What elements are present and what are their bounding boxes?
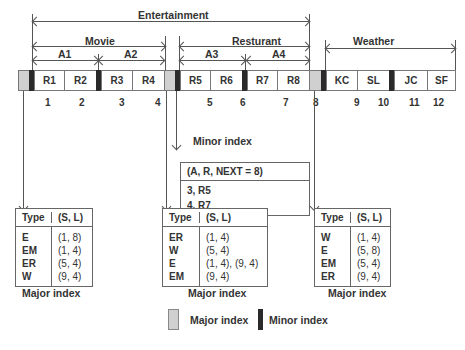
major-index-swatch <box>168 309 179 330</box>
record-cell: R6 <box>210 70 243 91</box>
sl-cell: (1, 4), (9, 4) <box>206 257 258 270</box>
sl-cell: (5, 4) <box>357 257 380 270</box>
sl-cell: (5, 4) <box>58 257 81 270</box>
record-cell: R3 <box>101 70 133 91</box>
type-cell: EM <box>321 257 350 270</box>
minor-index-title: Minor index <box>193 135 252 147</box>
type-cell: W <box>169 244 199 257</box>
position-number: 7 <box>283 97 289 108</box>
sl-cell: (9, 4) <box>58 270 81 283</box>
major-index-table-3: Type (S, L) W E EM ER (1, 4) (5, 8) (5, … <box>314 208 391 287</box>
type-cell: W <box>321 231 350 244</box>
record-cell: JC <box>394 70 428 91</box>
a4-label: A4 <box>272 48 285 60</box>
type-cell: E <box>321 244 350 257</box>
type-header: Type <box>16 212 52 223</box>
position-number: 12 <box>433 97 444 108</box>
type-cell: ER <box>321 270 350 283</box>
sl-cell: (1, 4) <box>357 231 380 244</box>
record-cell: SF <box>427 70 456 91</box>
position-number: 1 <box>45 97 51 108</box>
minor-index-header: (A, R, NEXT = 8) <box>181 163 309 181</box>
major-index-table-2: Type (S, L) ER W E EM (1, 4) (5, 4) (1, … <box>162 208 268 287</box>
sl-header: (S, L) <box>52 212 83 223</box>
restaurant-label: Resturant <box>232 35 281 47</box>
type-header: Type <box>315 212 351 223</box>
minor-index-swatch <box>258 309 263 330</box>
position-number: 6 <box>240 97 246 108</box>
position-number: 11 <box>409 97 420 108</box>
a3-label: A3 <box>205 48 218 60</box>
sl-header: (S, L) <box>351 212 382 223</box>
movie-label: Movie <box>85 35 115 47</box>
sl-cell: (1, 4) <box>206 231 258 244</box>
major-index-table-1: Type (S, L) E EM ER W (1, 8) (1, 4) (5, … <box>15 208 93 287</box>
type-cell: EM <box>169 270 199 283</box>
sl-cell: (1, 4) <box>58 244 81 257</box>
a1-label: A1 <box>58 48 71 60</box>
sl-header: (S, L) <box>200 212 231 223</box>
type-cell: ER <box>169 231 199 244</box>
record-cell: R5 <box>180 70 211 91</box>
entertainment-label: Entertainment <box>138 9 209 21</box>
record-cell: R8 <box>277 70 310 91</box>
position-number: 3 <box>119 97 125 108</box>
record-cell: R1 <box>34 70 65 91</box>
major-index-caption: Major index <box>188 287 246 299</box>
legend-major-label: Major index <box>190 314 248 326</box>
record-cell: KC <box>326 70 358 91</box>
sl-cell: (1, 8) <box>58 231 81 244</box>
position-number: 5 <box>207 97 213 108</box>
sl-cell: (5, 8) <box>357 244 380 257</box>
position-number: 2 <box>79 97 85 108</box>
type-cell: E <box>22 231 51 244</box>
major-index-caption: Major index <box>328 287 386 299</box>
type-cell: ER <box>22 257 51 270</box>
type-header: Type <box>163 212 200 223</box>
position-number: 9 <box>354 97 360 108</box>
record-cell: R4 <box>132 70 165 91</box>
record-cell: R7 <box>247 70 278 91</box>
type-cell: W <box>22 270 51 283</box>
position-number: 10 <box>378 97 389 108</box>
sl-cell: (5, 4) <box>206 244 258 257</box>
record-cell: SL <box>357 70 390 91</box>
sl-cell: (9, 4) <box>206 270 258 283</box>
minor-index-row: 3, R5 <box>181 183 309 198</box>
type-cell: EM <box>22 244 51 257</box>
type-cell: E <box>169 257 199 270</box>
record-cell: R2 <box>64 70 97 91</box>
legend-minor-label: Minor index <box>269 314 328 326</box>
position-number: 4 <box>155 97 161 108</box>
a2-label: A2 <box>124 48 137 60</box>
major-index-caption: Major index <box>22 287 80 299</box>
weather-label: Weather <box>353 35 394 47</box>
sl-cell: (9, 4) <box>357 270 380 283</box>
